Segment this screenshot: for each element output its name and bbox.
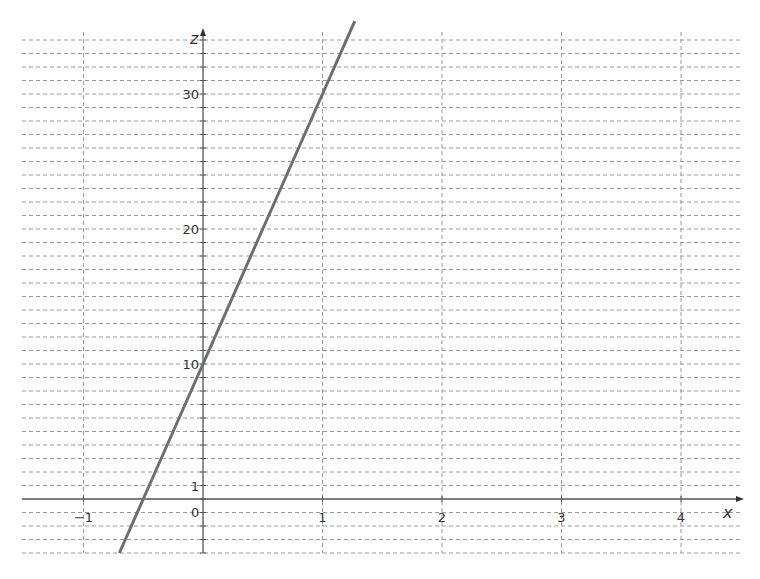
x-tick-label: 4 — [677, 510, 685, 525]
vertical-gridlines — [84, 32, 682, 553]
data-series — [119, 21, 354, 553]
z-tick-label: 30 — [182, 87, 199, 102]
z-tick-label: 20 — [182, 222, 199, 237]
tick-labels: −112341102030 — [74, 87, 685, 525]
x-tick-label: −1 — [74, 510, 93, 525]
series-line — [119, 21, 354, 553]
origin-label: 0 — [191, 505, 199, 520]
z-axis-arrow-icon — [200, 28, 206, 36]
axes — [22, 28, 744, 553]
x-tick-label: 1 — [318, 510, 326, 525]
x-axis-label: x — [722, 503, 733, 522]
x-tick-label: 2 — [438, 510, 446, 525]
chart-canvas: −112341102030 x z 0 — [0, 0, 760, 579]
z-axis-label: z — [189, 29, 199, 48]
horizontal-gridlines — [22, 40, 742, 553]
x-axis-arrow-icon — [736, 496, 744, 502]
z-tick-label: 1 — [191, 479, 199, 494]
z-tick-label: 10 — [182, 357, 199, 372]
x-tick-label: 3 — [557, 510, 565, 525]
